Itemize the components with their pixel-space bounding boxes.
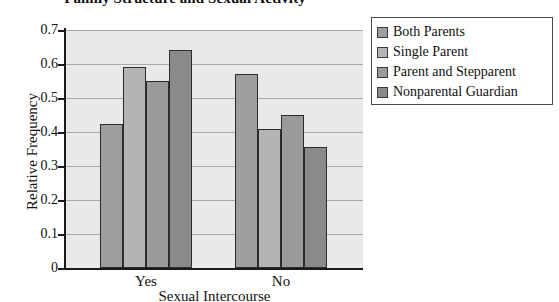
legend-item-label: Both Parents (393, 25, 465, 39)
chart-figure: Family Structure and Sexual Activity Rel… (0, 0, 559, 302)
chart-legend: Both ParentsSingle ParentParent and Step… (371, 17, 553, 105)
y-axis-tick-label: 0.2 (6, 193, 58, 207)
y-axis-tick-mark (58, 200, 65, 202)
y-axis-tick-mark (58, 234, 65, 236)
y-axis-tick-mark (58, 98, 65, 100)
legend-item[interactable]: Single Parent (377, 42, 552, 62)
legend-swatch-icon (377, 87, 388, 98)
gridline (66, 30, 363, 31)
y-axis-tick-label: 0.6 (6, 57, 58, 71)
legend-swatch-icon (377, 67, 388, 78)
y-axis-tick-mark (58, 64, 65, 66)
bar (235, 74, 258, 268)
legend-item[interactable]: Nonparental Guardian (377, 82, 552, 102)
legend-item-label: Nonparental Guardian (393, 85, 518, 99)
plot-area (66, 30, 363, 268)
legend-item-label: Single Parent (393, 45, 468, 59)
legend-item-label: Parent and Stepparent (393, 65, 516, 79)
legend-swatch-icon (377, 47, 388, 58)
gridline (66, 98, 363, 99)
bar (100, 124, 123, 269)
bar (281, 115, 304, 268)
y-axis-tick-label: 0.5 (6, 91, 58, 105)
bar (169, 50, 192, 268)
gridline (66, 64, 363, 65)
y-axis-tick-mark (58, 132, 65, 134)
bar (304, 147, 327, 268)
y-axis-tick-label: 0.7 (6, 23, 58, 37)
legend-item[interactable]: Both Parents (377, 22, 552, 42)
bar (146, 81, 169, 268)
y-axis-tick-mark (58, 30, 65, 32)
x-axis-title: Sexual Intercourse (66, 288, 363, 302)
y-axis-tick-labels: 0.70.60.50.40.30.20.10 (0, 0, 58, 302)
bar (258, 129, 281, 268)
legend-item[interactable]: Parent and Stepparent (377, 62, 552, 82)
x-axis-line (64, 268, 363, 270)
y-axis-tick-mark (58, 268, 65, 270)
y-axis-tick-label: 0.1 (6, 227, 58, 241)
y-axis-tick-label: 0.3 (6, 159, 58, 173)
y-axis-tick-label: 0.4 (6, 125, 58, 139)
y-axis-tick-label: 0 (6, 261, 58, 275)
legend-swatch-icon (377, 27, 388, 38)
bar (123, 67, 146, 268)
y-axis-tick-mark (58, 166, 65, 168)
